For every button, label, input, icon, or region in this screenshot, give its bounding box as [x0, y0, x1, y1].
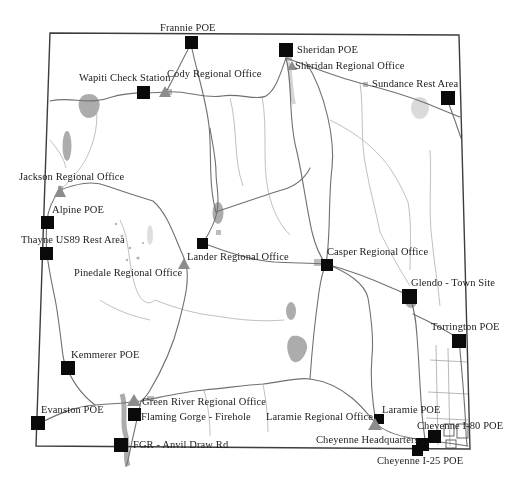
site-marker-jackson-regional-office: [54, 185, 66, 197]
site-label-wapiti-check-station: Wapiti Check Station: [79, 72, 171, 84]
site-marker-sheridan-poe: [279, 43, 293, 57]
site-label-pinedale-regional-office: Pinedale Regional Office: [74, 267, 182, 279]
site-label-alpine-poe: Alpine POE: [52, 204, 104, 216]
site-marker-lander-regional-office: [197, 238, 208, 249]
site-label-sheridan-regional-office: Sheridan Regional Office: [295, 60, 405, 72]
site-marker-kemmerer-poe: [61, 361, 75, 375]
site-label-frannie-poe: Frannie POE: [160, 22, 216, 34]
site-label-kemmerer-poe: Kemmerer POE: [71, 349, 140, 361]
site-marker-frannie-poe: [185, 36, 198, 49]
site-label-jackson-regional-office: Jackson Regional Office: [19, 171, 124, 183]
site-label-cheyenne-i25-poe: Cheyenne I-25 POE: [377, 455, 463, 467]
site-marker-sundance-rest-area: [441, 91, 455, 105]
wyoming-map-figure: Frannie POE Sheridan POE Sheridan Region…: [0, 0, 526, 486]
site-marker-casper-regional-office: [321, 259, 333, 271]
site-marker-thayne-us89-rest-area: [40, 247, 53, 260]
site-marker-torrington-poe: [452, 334, 466, 348]
site-marker-cody-regional-office: [159, 86, 171, 97]
site-label-cheyenne-headquarters: Cheyenne Headquarters: [316, 434, 419, 446]
site-label-sheridan-poe: Sheridan POE: [297, 44, 358, 56]
site-label-green-river-regional-office: Green River Regional Office: [142, 396, 266, 408]
site-label-glendo-town-site: Glendo - Town Site: [411, 277, 495, 289]
site-label-flaming-gorge-firehole: Flaming Gorge - Firehole: [141, 411, 251, 423]
site-label-torrington-poe: Torrington POE: [431, 321, 500, 333]
site-label-fgr-anvil-draw-rd: FGR - Anvil Draw Rd: [133, 439, 228, 451]
site-marker-green-river-regional-office: [127, 394, 141, 406]
site-marker-flaming-gorge-firehole: [128, 408, 141, 421]
site-marker-wapiti-check-station: [137, 86, 150, 99]
site-label-laramie-poe: Laramie POE: [382, 404, 441, 416]
site-marker-glendo-town-site: [402, 289, 417, 304]
site-label-casper-regional-office: Casper Regional Office: [327, 246, 428, 258]
site-marker-evanston-poe: [31, 416, 45, 430]
site-label-lander-regional-office: Lander Regional Office: [187, 251, 289, 263]
site-marker-fgr-anvil-draw-rd: [114, 438, 128, 452]
site-label-sundance-rest-area: Sundance Rest Area: [372, 78, 458, 90]
site-label-cheyenne-i80-poe: Cheyenne I-80 POE: [417, 420, 503, 432]
site-label-laramie-regional-office: Laramie Regional Office: [266, 411, 373, 423]
site-marker-alpine-poe: [41, 216, 54, 229]
site-label-thayne-us89-rest-area: Thayne US89 Rest Area: [21, 234, 125, 246]
site-label-evanston-poe: Evanston POE: [41, 404, 104, 416]
site-label-cody-regional-office: Cody Regional Office: [167, 68, 262, 80]
